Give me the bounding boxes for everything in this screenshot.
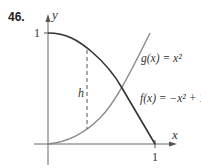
x-axis-arrow-icon [169, 142, 177, 147]
y-tick-label: 1 [34, 27, 40, 39]
graph [0, 0, 201, 168]
height-label: h [78, 87, 84, 99]
figure: 46. y 1 x 1 h g(x) = x² f(x) = −x² + 1 [0, 0, 201, 168]
x-axis-label: x [172, 128, 178, 141]
g-function-label: g(x) = x² [141, 53, 182, 65]
f-curve [48, 33, 155, 144]
g-curve [48, 33, 150, 144]
y-axis-arrow-icon [46, 14, 51, 22]
y-axis-label: y [52, 8, 58, 21]
f-function-label: f(x) = −x² + 1 [140, 93, 201, 105]
x-tick-label: 1 [152, 151, 158, 163]
